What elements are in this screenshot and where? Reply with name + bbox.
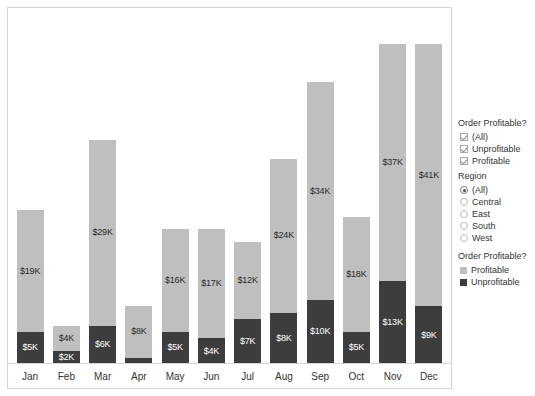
filter-option-label: South: [472, 221, 496, 231]
x-tick-oct[interactable]: Oct: [338, 364, 374, 388]
filter-checkbox-row[interactable]: Profitable: [458, 155, 535, 167]
x-tick-aug[interactable]: Aug: [266, 364, 302, 388]
bar-stack[interactable]: $4K$2K: [53, 326, 80, 364]
bar-segment-unprofitable[interactable]: $5K: [343, 332, 370, 364]
x-tick-jun[interactable]: Jun: [193, 364, 229, 388]
x-tick-sep[interactable]: Sep: [302, 364, 338, 388]
bar-segment-profitable[interactable]: $41K: [415, 44, 442, 307]
bar-segment-label: $5K: [22, 343, 37, 352]
bar-segment-unprofitable[interactable]: $10K: [307, 300, 334, 364]
x-tick-jul[interactable]: Jul: [230, 364, 266, 388]
bar-segment-label: $2K: [59, 353, 74, 362]
bar-stack[interactable]: $18K$5K: [343, 217, 370, 364]
filter-radio-row[interactable]: (All): [458, 184, 535, 196]
radio-icon[interactable]: [460, 222, 468, 230]
x-tick-mar[interactable]: Mar: [85, 364, 121, 388]
checkbox-icon[interactable]: [460, 157, 468, 165]
filter-checkbox-row[interactable]: (All): [458, 131, 535, 143]
bar-segment-unprofitable[interactable]: $6K: [89, 326, 116, 364]
legend-entry-label: Unprofitable: [471, 277, 520, 287]
radio-icon[interactable]: [460, 198, 468, 206]
bar-column-dec[interactable]: $41K$9K: [411, 8, 447, 364]
bar-segment-unprofitable[interactable]: $5K: [162, 332, 189, 364]
bar-segment-label: $7K: [240, 337, 255, 346]
bar-segment-label: $5K: [167, 343, 182, 352]
bar-stack[interactable]: $17K$4K: [198, 229, 225, 364]
filter-region: Region (All)CentralEastSouthWest: [458, 171, 535, 244]
filter-option-label: West: [472, 233, 492, 243]
x-tick-jan[interactable]: Jan: [12, 364, 48, 388]
bar-segment-unprofitable[interactable]: $5K: [17, 332, 44, 364]
x-tick-apr[interactable]: Apr: [121, 364, 157, 388]
bar-segment-profitable[interactable]: $4K: [53, 326, 80, 352]
radio-icon[interactable]: [460, 234, 468, 242]
bar-segment-label: $29K: [93, 228, 113, 237]
legend-entry[interactable]: Profitable: [458, 264, 535, 276]
bar-column-nov[interactable]: $37K$13K: [375, 8, 411, 364]
bar-stack[interactable]: $34K$10K: [307, 82, 334, 364]
filter-checkbox-row[interactable]: Unprofitable: [458, 143, 535, 155]
bar-column-feb[interactable]: $4K$2K: [48, 8, 84, 364]
legend-color-swatch: [460, 279, 467, 286]
bar-column-aug[interactable]: $24K$8K: [266, 8, 302, 364]
checkbox-icon[interactable]: [460, 145, 468, 153]
bar-segment-profitable[interactable]: $8K: [125, 306, 152, 357]
bar-segment-unprofitable[interactable]: $8K: [270, 313, 297, 364]
filter-radio-row[interactable]: South: [458, 220, 535, 232]
bar-column-sep[interactable]: $34K$10K: [302, 8, 338, 364]
bar-segment-profitable[interactable]: $34K: [307, 82, 334, 300]
x-tick-dec[interactable]: Dec: [411, 364, 447, 388]
bar-column-jul[interactable]: $12K$7K: [230, 8, 266, 364]
color-legend-title: Order Profitable?: [458, 251, 535, 261]
filter-option-label: (All): [472, 185, 488, 195]
bar-segment-profitable[interactable]: $24K: [270, 159, 297, 313]
bar-segment-unprofitable[interactable]: $9K: [415, 306, 442, 364]
checkbox-icon[interactable]: [460, 133, 468, 141]
filter-region-title: Region: [458, 171, 535, 181]
filter-radio-row[interactable]: West: [458, 232, 535, 244]
bar-segment-label: $4K: [59, 334, 74, 343]
filter-region-options: (All)CentralEastSouthWest: [458, 184, 535, 244]
bar-segment-profitable[interactable]: $17K: [198, 229, 225, 338]
bar-column-jun[interactable]: $17K$4K: [193, 8, 229, 364]
legend-entry[interactable]: Unprofitable: [458, 276, 535, 288]
x-tick-nov[interactable]: Nov: [375, 364, 411, 388]
bar-segment-label: $13K: [383, 318, 403, 327]
bar-segment-label: $8K: [276, 334, 291, 343]
bar-column-jan[interactable]: $19K$5K: [12, 8, 48, 364]
bar-stack[interactable]: $29K$6K: [89, 140, 116, 364]
bar-stack[interactable]: $24K$8K: [270, 159, 297, 364]
bar-column-oct[interactable]: $18K$5K: [338, 8, 374, 364]
bar-stack[interactable]: $12K$7K: [234, 242, 261, 364]
bar-stack[interactable]: $41K$9K: [415, 44, 442, 364]
bar-segment-profitable[interactable]: $19K: [17, 210, 44, 332]
filter-order-profitable: Order Profitable? (All)UnprofitableProfi…: [458, 118, 535, 167]
filter-order-profitable-options: (All)UnprofitableProfitable: [458, 131, 535, 167]
bar-segment-profitable[interactable]: $37K: [379, 44, 406, 281]
bar-segment-profitable[interactable]: $29K: [89, 140, 116, 326]
bar-stack[interactable]: $19K$5K: [17, 210, 44, 364]
bar-segment-profitable[interactable]: $18K: [343, 217, 370, 332]
bar-stack[interactable]: $8K: [125, 306, 152, 364]
radio-icon[interactable]: [460, 186, 468, 194]
bar-series-container: $19K$5K$4K$2K$29K$6K$8K$16K$5K$17K$4K$12…: [12, 8, 447, 364]
bar-segment-unprofitable[interactable]: $7K: [234, 319, 261, 364]
radio-icon[interactable]: [460, 210, 468, 218]
x-axis-tick-labels: JanFebMarAprMayJunJulAugSepOctNovDec: [12, 364, 447, 388]
bar-segment-unprofitable[interactable]: $4K: [198, 338, 225, 364]
bar-column-apr[interactable]: $8K: [121, 8, 157, 364]
filter-radio-row[interactable]: Central: [458, 196, 535, 208]
bar-column-may[interactable]: $16K$5K: [157, 8, 193, 364]
x-tick-may[interactable]: May: [157, 364, 193, 388]
bar-segment-unprofitable[interactable]: $13K: [379, 281, 406, 364]
color-legend: Order Profitable? ProfitableUnprofitable: [458, 251, 535, 288]
bar-stack[interactable]: $16K$5K: [162, 229, 189, 364]
bar-stack[interactable]: $37K$13K: [379, 44, 406, 364]
filter-radio-row[interactable]: East: [458, 208, 535, 220]
bar-segment-label: $16K: [165, 276, 185, 285]
bar-column-mar[interactable]: $29K$6K: [85, 8, 121, 364]
plot-area: $19K$5K$4K$2K$29K$6K$8K$16K$5K$17K$4K$12…: [8, 8, 451, 364]
bar-segment-profitable[interactable]: $16K: [162, 229, 189, 332]
bar-segment-profitable[interactable]: $12K: [234, 242, 261, 319]
x-tick-feb[interactable]: Feb: [48, 364, 84, 388]
